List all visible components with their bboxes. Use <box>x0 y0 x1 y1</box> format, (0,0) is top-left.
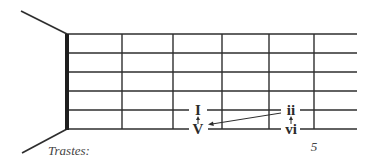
headstock-top-line <box>21 11 67 34</box>
chord-label-I: I <box>195 102 201 118</box>
nut <box>65 34 69 130</box>
fret-number-label: 5 <box>311 139 318 154</box>
arrow-ii-to-V <box>208 113 281 126</box>
fretboard-diagram: I V ii vi Trastes: 5 <box>0 0 379 168</box>
chord-label-ii: ii <box>287 102 295 118</box>
frets-caption: Trastes: <box>48 143 90 158</box>
